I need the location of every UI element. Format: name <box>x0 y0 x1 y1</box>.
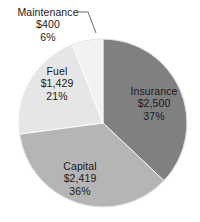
pie-label-capital: Capital $2,419 36% <box>44 160 116 197</box>
pie-label-insurance: Insurance $2,500 37% <box>118 85 190 122</box>
pie-label-insurance-value: $2,500 <box>118 97 190 109</box>
pie-label-maintenance-percent: 6% <box>2 31 94 43</box>
pie-label-insurance-percent: 37% <box>118 110 190 122</box>
pie-label-capital-percent: 36% <box>44 185 116 197</box>
pie-label-maintenance-value: $400 <box>2 18 94 30</box>
pie-label-insurance-name: Insurance <box>118 85 190 97</box>
pie-chart: Insurance $2,500 37% Capital $2,419 36% … <box>0 0 200 222</box>
pie-label-capital-name: Capital <box>44 160 116 172</box>
pie-label-maintenance: Maintenance $400 6% <box>2 6 94 43</box>
pie-label-fuel-name: Fuel <box>24 65 90 77</box>
pie-label-fuel-percent: 21% <box>24 90 90 102</box>
pie-label-fuel-value: $1,429 <box>24 77 90 89</box>
pie-label-capital-value: $2,419 <box>44 172 116 184</box>
pie-label-fuel: Fuel $1,429 21% <box>24 65 90 102</box>
pie-label-maintenance-name: Maintenance <box>2 6 94 18</box>
